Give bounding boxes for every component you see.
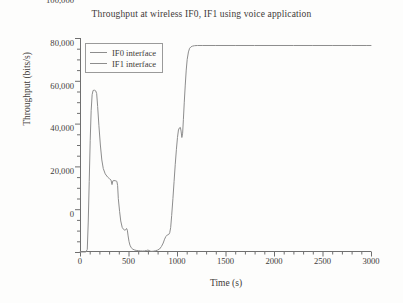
figure: Throughput at wireless IF0, IF1 using vo… <box>0 0 403 303</box>
legend: IF0 interface IF1 interface <box>85 43 163 73</box>
legend-label-if0: IF0 interface <box>112 48 156 58</box>
legend-line-icon-if0 <box>90 52 107 53</box>
x-tick-label: 1500 <box>201 256 251 266</box>
x-tick-label: 2000 <box>249 256 299 266</box>
y-tick-label: 0 <box>28 209 74 219</box>
x-tick-label: 500 <box>104 256 154 266</box>
x-tick-label: 3000 <box>346 256 396 266</box>
y-tick-label: 60,000 <box>28 81 74 91</box>
legend-line-icon-if1 <box>90 63 107 64</box>
y-tick-label: 80,000 <box>28 38 74 48</box>
data-line-if0 <box>80 45 371 252</box>
legend-item-if0: IF0 interface <box>90 47 156 58</box>
x-tick-label: 0 <box>55 256 105 266</box>
x-axis-label: Time (s) <box>80 278 372 288</box>
legend-label-if1: IF1 interface <box>112 59 156 69</box>
x-tick-label: 1000 <box>152 256 202 266</box>
y-tick-label: 20,000 <box>28 166 74 176</box>
legend-item-if1: IF1 interface <box>90 58 156 69</box>
y-tick-label: 40,000 <box>28 123 74 133</box>
x-tick-label: 2500 <box>298 256 348 266</box>
x-axis-tick-labels: 050010001500200025003000 <box>80 256 371 270</box>
y-tick-label: 100,000 <box>28 0 74 5</box>
